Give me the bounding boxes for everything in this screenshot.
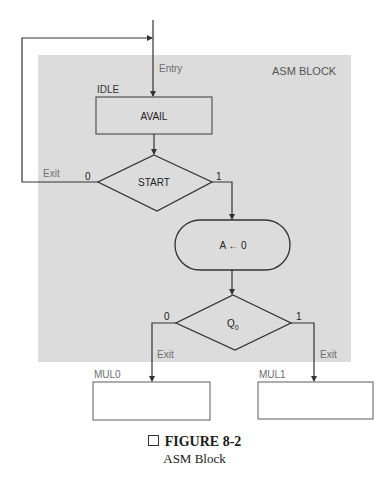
q0-true-exit-label: Exit <box>320 349 337 360</box>
figure-caption-subtitle: ASM Block <box>0 451 389 467</box>
conditional-output-text: A ← 0 <box>219 240 247 251</box>
decision-q0-true-label: 1 <box>296 311 302 322</box>
state-output-avail: AVAIL <box>141 111 168 122</box>
asm-diagram: ASM BLOCK Entry IDLE AVAIL START 0 Exit … <box>0 0 389 483</box>
decision-start-condition: START <box>138 177 170 188</box>
figure-caption-title-text: FIGURE 8-2 <box>165 434 242 449</box>
asm-diagram-svg: ASM BLOCK Entry IDLE AVAIL START 0 Exit … <box>0 0 389 483</box>
decision-start-true-label: 1 <box>216 171 222 182</box>
caption-square-icon <box>148 435 159 446</box>
asm-block-region <box>38 55 351 362</box>
figure-caption-title: FIGURE 8-2 <box>0 434 389 450</box>
next-state-mul1-name: MUL1 <box>259 369 286 380</box>
asm-block-label: ASM BLOCK <box>272 65 337 77</box>
state-name-idle: IDLE <box>97 84 120 95</box>
next-state-mul0-box <box>93 382 210 420</box>
decision-q0-condition-sub: 0 <box>235 324 239 331</box>
decision-start-exit-label: Exit <box>43 168 60 179</box>
entry-label: Entry <box>159 63 182 74</box>
decision-q0-false-label: 0 <box>164 311 170 322</box>
q0-false-exit-label: Exit <box>157 349 174 360</box>
next-state-mul0-name: MUL0 <box>94 369 121 380</box>
decision-start-false-label: 0 <box>85 171 91 182</box>
next-state-mul1-box <box>258 382 373 419</box>
